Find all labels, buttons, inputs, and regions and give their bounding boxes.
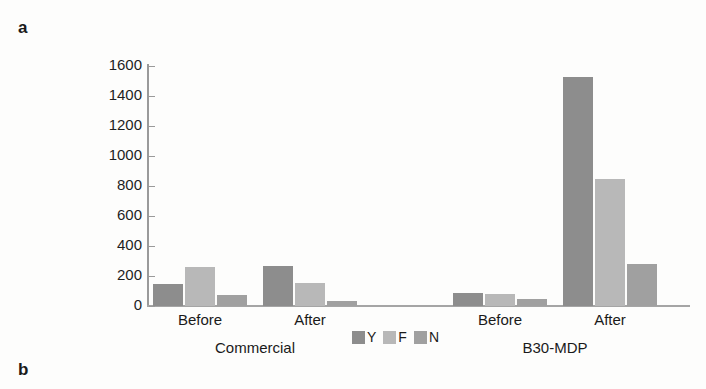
x-axis-category-label: After bbox=[265, 311, 355, 328]
bar-f-3 bbox=[595, 179, 625, 306]
y-axis-tick-label: 800 bbox=[84, 176, 142, 193]
bar-y-2 bbox=[453, 293, 483, 307]
y-axis-tick-label: 200 bbox=[84, 266, 142, 283]
legend-swatch-n bbox=[414, 331, 427, 344]
y-axis-tick-label: 400 bbox=[84, 236, 142, 253]
y-axis-tick-label: 1600 bbox=[84, 56, 142, 73]
bar-f-2 bbox=[485, 294, 515, 306]
legend-item-y: Y bbox=[352, 331, 376, 344]
y-axis-tick-label: 1000 bbox=[84, 146, 142, 163]
bar-n-2 bbox=[517, 299, 547, 306]
x-axis-category-label: Before bbox=[455, 311, 545, 328]
y-axis-tick bbox=[149, 306, 155, 307]
x-axis-category-label: Before bbox=[155, 311, 245, 328]
bars-layer bbox=[148, 66, 690, 306]
legend-label-n: N bbox=[429, 331, 439, 344]
y-axis-tick-label: 0 bbox=[84, 296, 142, 313]
bar-y-3 bbox=[563, 77, 593, 307]
bar-chart: 02004006008001000120014001600 BeforeAfte… bbox=[0, 0, 706, 389]
bar-y-1 bbox=[263, 266, 293, 306]
bar-n-3 bbox=[627, 264, 657, 306]
x-axis-group-label: Commercial bbox=[185, 339, 325, 356]
x-axis-group-label: B30-MDP bbox=[485, 339, 625, 356]
legend-swatch-f bbox=[383, 331, 396, 344]
chart-legend: YFN bbox=[352, 331, 444, 344]
legend-label-f: F bbox=[398, 331, 407, 344]
legend-item-f: F bbox=[383, 331, 407, 344]
legend-item-n: N bbox=[414, 331, 439, 344]
bar-f-1 bbox=[295, 283, 325, 306]
legend-swatch-y bbox=[352, 331, 365, 344]
bar-n-0 bbox=[217, 295, 247, 306]
bar-f-0 bbox=[185, 267, 215, 306]
legend-label-y: Y bbox=[367, 331, 376, 344]
y-axis-tick-label: 600 bbox=[84, 206, 142, 223]
bar-y-0 bbox=[153, 284, 183, 307]
x-axis-category-label: After bbox=[565, 311, 655, 328]
y-axis-tick-label: 1200 bbox=[84, 116, 142, 133]
y-axis-tick-label: 1400 bbox=[84, 86, 142, 103]
bar-n-1 bbox=[327, 301, 357, 306]
y-axis-tick-labels: 02004006008001000120014001600 bbox=[84, 0, 142, 389]
